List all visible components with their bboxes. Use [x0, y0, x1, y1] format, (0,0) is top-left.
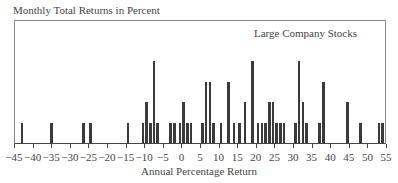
x-tick [88, 144, 89, 148]
x-tick-label: 10 [213, 151, 224, 163]
bar [346, 102, 349, 143]
bar [169, 123, 172, 144]
bar [257, 123, 260, 144]
bar [283, 123, 286, 144]
bar [322, 82, 325, 144]
bar [156, 123, 159, 144]
bar [153, 61, 156, 143]
x-tick [14, 144, 15, 148]
x-tick-label: 0 [179, 151, 185, 163]
x-tick [200, 144, 201, 148]
x-tick-label: 45 [343, 151, 354, 163]
x-tick-label: −20 [98, 151, 115, 163]
plot-area: Large Company Stocks [14, 20, 386, 144]
x-tick-label: −25 [80, 151, 97, 163]
bar [82, 123, 85, 144]
bar [212, 123, 215, 144]
x-tick [126, 144, 127, 148]
x-tick-label: 50 [362, 151, 373, 163]
bar [264, 123, 267, 144]
bar [251, 61, 254, 143]
x-tick-label: −15 [117, 151, 134, 163]
bar [305, 123, 308, 144]
x-tick-label: 25 [269, 151, 280, 163]
x-tick [293, 144, 294, 148]
x-tick [163, 144, 164, 148]
x-tick-label: 35 [306, 151, 317, 163]
x-tick [107, 144, 108, 148]
x-tick [330, 144, 331, 148]
bar [21, 123, 24, 144]
x-tick-label: 55 [381, 151, 392, 163]
x-tick-label: 20 [250, 151, 261, 163]
x-tick-label: −10 [136, 151, 153, 163]
x-tick-label: −5 [157, 151, 169, 163]
bar [50, 123, 53, 144]
bar [298, 61, 301, 143]
x-tick [386, 144, 387, 148]
bar [205, 82, 208, 144]
bar [220, 123, 223, 144]
x-tick-label: −30 [61, 151, 78, 163]
x-tick-label: 40 [325, 151, 336, 163]
x-tick [33, 144, 34, 148]
bar [209, 82, 212, 144]
bar [142, 123, 145, 144]
bar [89, 123, 92, 144]
bar [378, 123, 381, 144]
bar [233, 123, 236, 144]
bar [244, 102, 247, 143]
bar [227, 82, 230, 144]
x-tick-label: −45 [5, 151, 22, 163]
x-tick-label: 5 [197, 151, 203, 163]
x-tick [144, 144, 145, 148]
bar [268, 102, 271, 143]
bar [173, 123, 176, 144]
x-tick [312, 144, 313, 148]
bar [201, 123, 204, 144]
bar [182, 102, 185, 143]
bar [359, 123, 362, 144]
x-tick [219, 144, 220, 148]
x-tick [70, 144, 71, 148]
x-tick [367, 144, 368, 148]
bar [186, 123, 189, 144]
x-tick-label: −40 [24, 151, 41, 163]
bar [294, 123, 297, 144]
legend-series-label: Large Company Stocks [254, 27, 357, 39]
bar [272, 102, 275, 143]
bar [190, 123, 193, 144]
bar [145, 102, 148, 143]
x-tick [274, 144, 275, 148]
bar [275, 123, 278, 144]
bar [238, 123, 241, 144]
bar [279, 123, 282, 144]
x-axis-label: Annual Percentage Return [0, 165, 398, 177]
x-tick [349, 144, 350, 148]
x-tick [256, 144, 257, 148]
bar [261, 123, 264, 144]
x-tick [51, 144, 52, 148]
bar [127, 123, 130, 144]
bar [302, 102, 305, 143]
bar [149, 123, 152, 144]
bar [179, 123, 182, 144]
x-tick [237, 144, 238, 148]
bar [318, 123, 321, 144]
x-tick [181, 144, 182, 148]
x-tick-label: 30 [288, 151, 299, 163]
x-tick-label: 15 [232, 151, 243, 163]
x-tick-label: −35 [43, 151, 60, 163]
bar [381, 123, 384, 144]
y-axis-label: Monthly Total Returns in Percent [13, 4, 160, 16]
